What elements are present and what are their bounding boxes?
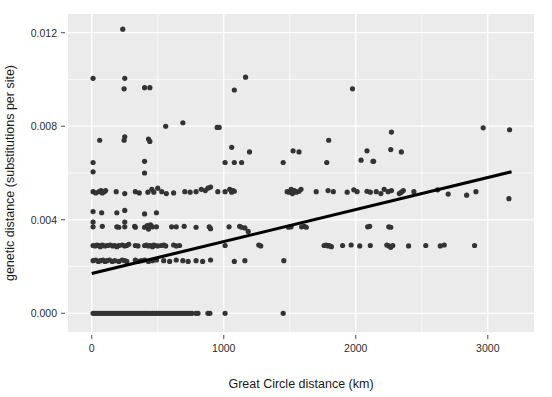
data-point bbox=[122, 191, 127, 196]
y-tick-label: 0.004 bbox=[31, 214, 57, 226]
data-point bbox=[331, 189, 336, 194]
data-point bbox=[180, 258, 185, 263]
data-point bbox=[122, 86, 127, 91]
data-point bbox=[298, 187, 303, 192]
data-point bbox=[389, 129, 394, 134]
data-point bbox=[116, 225, 121, 230]
data-point bbox=[355, 189, 360, 194]
data-point bbox=[193, 258, 198, 263]
data-point bbox=[472, 243, 477, 248]
data-point bbox=[506, 196, 511, 201]
data-point bbox=[90, 209, 95, 214]
data-point bbox=[247, 149, 252, 154]
data-point bbox=[226, 224, 231, 229]
data-point bbox=[122, 134, 127, 139]
data-point bbox=[364, 148, 369, 153]
data-point bbox=[340, 243, 345, 248]
data-point bbox=[208, 257, 213, 262]
data-point bbox=[186, 259, 191, 264]
data-point bbox=[243, 75, 248, 80]
x-axis-title: Great Circle distance (km) bbox=[228, 377, 373, 391]
data-point bbox=[167, 259, 172, 264]
data-point bbox=[90, 160, 95, 165]
data-point bbox=[90, 224, 95, 229]
data-point bbox=[193, 189, 198, 194]
data-point bbox=[122, 76, 127, 81]
data-point bbox=[232, 189, 237, 194]
data-point bbox=[200, 259, 205, 264]
data-point bbox=[222, 160, 227, 165]
data-point bbox=[464, 193, 469, 198]
data-point bbox=[242, 258, 247, 263]
data-point bbox=[371, 159, 376, 164]
data-point bbox=[232, 259, 237, 264]
data-point bbox=[208, 226, 213, 231]
data-point bbox=[126, 242, 131, 247]
data-point bbox=[446, 191, 451, 196]
data-point bbox=[171, 190, 176, 195]
data-point bbox=[345, 190, 350, 195]
data-point bbox=[358, 158, 363, 163]
data-point bbox=[281, 160, 286, 165]
data-point bbox=[159, 189, 164, 194]
y-axis-title: genetic distance (substitutions per site… bbox=[3, 65, 17, 281]
data-point bbox=[182, 189, 187, 194]
data-point bbox=[135, 243, 140, 248]
data-point bbox=[207, 311, 212, 316]
data-point bbox=[350, 86, 355, 91]
data-point bbox=[367, 224, 372, 229]
data-point bbox=[281, 258, 286, 263]
x-tick-label: 0 bbox=[89, 342, 95, 354]
y-tick-label: 0.008 bbox=[31, 120, 57, 132]
data-point bbox=[147, 139, 152, 144]
data-point bbox=[90, 76, 95, 81]
data-point bbox=[215, 189, 220, 194]
data-point bbox=[133, 225, 138, 230]
data-point bbox=[208, 184, 213, 189]
data-point bbox=[100, 224, 105, 229]
data-point bbox=[169, 224, 174, 229]
plot-canvas: 0100020003000 0.0000.0040.0080.012 Great… bbox=[0, 0, 552, 397]
data-point bbox=[163, 124, 168, 129]
data-point bbox=[326, 138, 331, 143]
data-point bbox=[142, 170, 147, 175]
data-point bbox=[329, 244, 334, 249]
data-point bbox=[401, 188, 406, 193]
data-point bbox=[154, 224, 159, 229]
data-point bbox=[378, 191, 383, 196]
data-point bbox=[442, 242, 447, 247]
data-point bbox=[99, 210, 104, 215]
data-point bbox=[281, 311, 286, 316]
x-tick-label: 3000 bbox=[476, 342, 500, 354]
data-point bbox=[163, 243, 168, 248]
data-point bbox=[473, 189, 478, 194]
data-point bbox=[177, 243, 182, 248]
data-point bbox=[155, 186, 160, 191]
data-point bbox=[239, 160, 244, 165]
data-point bbox=[188, 190, 193, 195]
data-point bbox=[374, 189, 379, 194]
data-point bbox=[368, 243, 373, 248]
data-point bbox=[142, 211, 147, 216]
data-point bbox=[232, 87, 237, 92]
data-point bbox=[120, 27, 125, 32]
data-point bbox=[142, 159, 147, 164]
data-point bbox=[304, 225, 309, 230]
data-point bbox=[97, 138, 102, 143]
y-tick-label: 0.012 bbox=[31, 27, 57, 39]
data-point bbox=[222, 311, 227, 316]
scatter-plot-figure: 0100020003000 0.0000.0040.0080.012 Great… bbox=[0, 0, 552, 397]
data-point bbox=[222, 189, 227, 194]
x-tick-label: 2000 bbox=[344, 342, 368, 354]
data-point bbox=[90, 169, 95, 174]
data-point bbox=[122, 208, 127, 213]
data-point bbox=[174, 224, 179, 229]
data-point bbox=[314, 189, 319, 194]
data-point bbox=[290, 148, 295, 153]
data-point bbox=[151, 190, 156, 195]
data-point bbox=[368, 190, 373, 195]
data-point bbox=[390, 243, 395, 248]
data-point bbox=[296, 149, 301, 154]
data-point bbox=[217, 125, 222, 130]
data-point bbox=[90, 220, 95, 225]
